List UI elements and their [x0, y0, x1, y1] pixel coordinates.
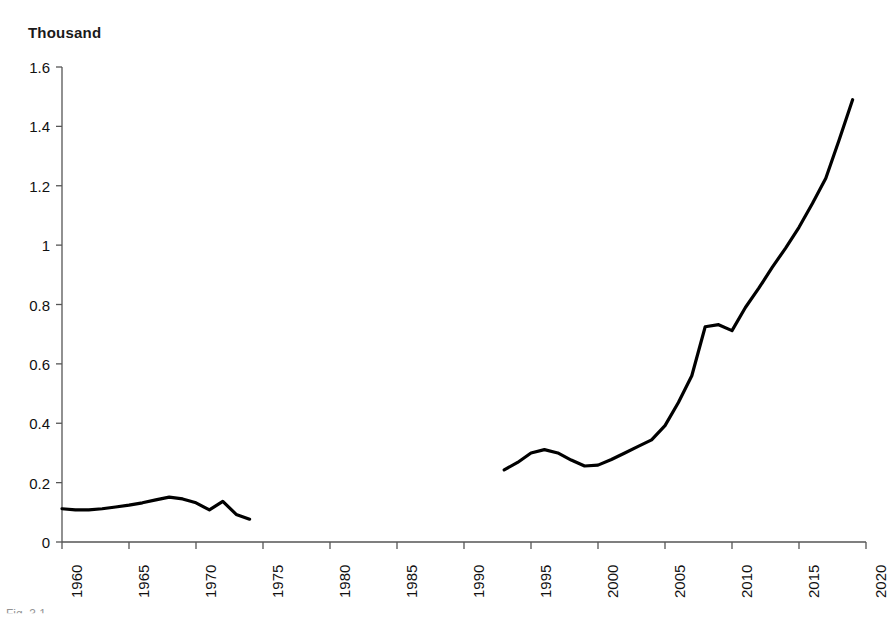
x-axis-tick-label: 1990 [470, 565, 487, 598]
x-axis-tick-label: 1975 [269, 565, 286, 598]
y-axis-tick-label: 0.6 [0, 355, 50, 372]
x-axis-tick-label: 2000 [604, 565, 621, 598]
x-axis-tick-label: 1980 [336, 565, 353, 598]
x-axis-tick-label: 2010 [738, 565, 755, 598]
data-line-segment-1 [62, 497, 250, 519]
y-axis-tick-label: 0.4 [0, 415, 50, 432]
figure-container: Thousand 00.20.40.60.811.21.41.6 1960196… [0, 0, 891, 621]
x-axis-tick-label: 1960 [68, 565, 85, 598]
x-axis-ticks [62, 542, 866, 549]
axis-lines [62, 67, 866, 542]
x-axis-tick-label: 1970 [202, 565, 219, 598]
chart-plot-area: 00.20.40.60.811.21.41.6 1960196519701975… [0, 0, 891, 621]
x-axis-tick-label: 2020 [872, 565, 889, 598]
y-axis-tick-label: 0 [0, 534, 50, 551]
y-axis-tick-label: 1 [0, 237, 50, 254]
x-axis-tick-label: 2005 [671, 565, 688, 598]
y-axis-ticks [56, 67, 62, 542]
x-axis-tick-label: 1985 [403, 565, 420, 598]
y-axis-tick-label: 1.2 [0, 177, 50, 194]
y-axis-tick-label: 0.8 [0, 296, 50, 313]
data-line-segment-2 [504, 100, 852, 470]
x-axis-tick-label: 1965 [135, 565, 152, 598]
data-series-group [62, 100, 853, 519]
x-axis-tick-label: 1995 [537, 565, 554, 598]
y-axis-tick-label: 1.6 [0, 59, 50, 76]
y-axis-tick-label: 1.4 [0, 118, 50, 135]
y-axis-tick-label: 0.2 [0, 474, 50, 491]
chart-svg [0, 0, 891, 621]
x-axis-tick-label: 2015 [805, 565, 822, 598]
